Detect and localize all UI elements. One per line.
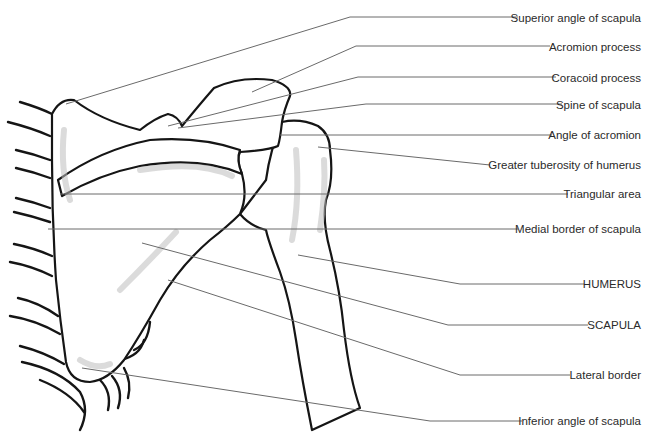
- label-coracoid-process: Coracoid process: [552, 71, 641, 85]
- label-inferior-angle: Inferior angle of scapula: [518, 414, 641, 428]
- label-lateral-border: Lateral border: [569, 368, 641, 382]
- label-medial-border: Medial border of scapula: [515, 222, 641, 236]
- label-greater-tuberosity: Greater tuberosity of humerus: [488, 158, 641, 172]
- label-spine-of-scapula: Spine of scapula: [556, 98, 641, 112]
- label-angle-of-acromion: Angle of acromion: [548, 128, 641, 142]
- label-superior-angle: Superior angle of scapula: [511, 11, 641, 25]
- label-scapula: SCAPULA: [587, 318, 641, 332]
- label-humerus: HUMERUS: [583, 277, 641, 291]
- label-acromion-process: Acromion process: [549, 40, 641, 54]
- humerus-bone: [240, 121, 360, 430]
- label-triangular-area: Triangular area: [563, 187, 641, 201]
- scapula-bone: [52, 79, 290, 382]
